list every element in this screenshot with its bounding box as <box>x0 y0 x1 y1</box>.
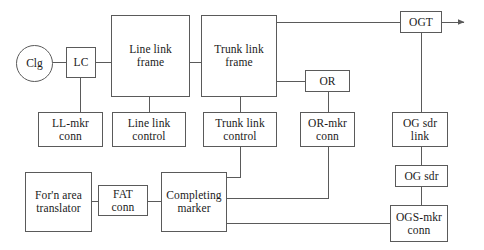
node-label-llctl: Line link control <box>128 117 171 143</box>
node-label-llmkr: LL-mkr conn <box>52 117 89 143</box>
node-fat: For'n area translator <box>25 172 92 232</box>
connector-cmkr-tlctl <box>227 147 240 177</box>
node-or: OR <box>305 70 350 92</box>
node-label-ogsdrlink: OG sdr link <box>403 117 437 143</box>
node-label-ogsdr: OG sdr <box>404 170 438 183</box>
node-llctl: Line link control <box>112 112 186 147</box>
node-fatconn: FAT conn <box>98 185 148 216</box>
node-llf: Line link frame <box>111 15 190 97</box>
node-ogsdr: OG sdr <box>395 165 448 187</box>
node-label-tlf: Trunk link frame <box>214 43 263 69</box>
node-tlctl: Trunk link control <box>203 112 277 147</box>
node-label-fat: For'n area translator <box>35 189 82 215</box>
node-label-ormkr: OR-mkr conn <box>308 117 347 143</box>
node-label-llf: Line link frame <box>129 43 172 69</box>
node-ogsmkr: OGS-mkr conn <box>390 205 448 242</box>
node-label-or: OR <box>319 75 335 88</box>
node-label-lc: LC <box>74 56 89 69</box>
node-clg: Clg <box>16 45 53 82</box>
connector-cmkr-ormkr <box>227 147 328 198</box>
node-label-fatconn: FAT conn <box>112 188 135 214</box>
node-lc: LC <box>66 47 96 78</box>
node-label-ogt: OGT <box>409 16 433 29</box>
node-tlf: Trunk link frame <box>201 15 277 97</box>
node-label-tlctl: Trunk link control <box>215 117 264 143</box>
node-label-clg: Clg <box>26 57 43 70</box>
node-ogt: OGT <box>400 11 442 33</box>
node-ogsdrlink: OG sdr link <box>392 112 448 147</box>
node-label-ogsmkr: OGS-mkr conn <box>396 211 442 237</box>
node-llmkr: LL-mkr conn <box>38 112 103 147</box>
node-cmkr: Completing marker <box>161 172 227 232</box>
node-label-cmkr: Completing marker <box>166 189 221 215</box>
block-diagram-canvas: ClgLCLine link frameTrunk link frameOROG… <box>0 0 484 250</box>
node-ormkr: OR-mkr conn <box>300 112 355 147</box>
